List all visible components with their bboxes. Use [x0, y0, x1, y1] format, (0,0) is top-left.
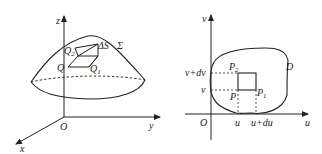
z-axis-label: z [55, 15, 60, 26]
tick-v-dv-label: v+dv [185, 67, 206, 78]
x-axis [16, 117, 64, 144]
right-panel-uv-region-diagram: v u O D u u+du v v+dv P P1 P2 [185, 13, 310, 140]
point-q2-label: Q2 [64, 45, 75, 58]
tick-v-label: v [201, 84, 206, 95]
point-q-label: Q [57, 62, 65, 73]
point-p-label: P [229, 91, 236, 102]
tick-u-label: u [235, 117, 240, 128]
y-axis-label: y [148, 120, 154, 131]
x-axis-label: x [19, 143, 25, 154]
origin-label-left: O [60, 121, 67, 132]
u-axis-label: u [305, 117, 310, 128]
surface-rim-dashed [31, 76, 145, 82]
origin-label-right: O [200, 117, 207, 128]
region-d-boundary [210, 48, 288, 114]
point-p1-label: P1 [256, 87, 267, 100]
surface-rim-front [31, 80, 145, 99]
tick-u-du-label: u+du [251, 117, 273, 128]
sigma-label: Σ [116, 40, 123, 51]
delta-s-label: ΔS [97, 40, 109, 51]
v-axis-label: v [202, 13, 207, 24]
figure: z y x O Σ ΔS Q Q1 Q2 v u O D u u+du v [0, 0, 322, 154]
point-q1-label: Q1 [90, 63, 101, 76]
left-panel-surface-diagram: z y x O Σ ΔS Q Q1 Q2 [16, 15, 160, 154]
area-element-square [238, 73, 256, 90]
region-d-label: D [285, 61, 294, 72]
point-p2-label: P2 [228, 61, 239, 74]
surface-sigma-top [31, 36, 145, 82]
